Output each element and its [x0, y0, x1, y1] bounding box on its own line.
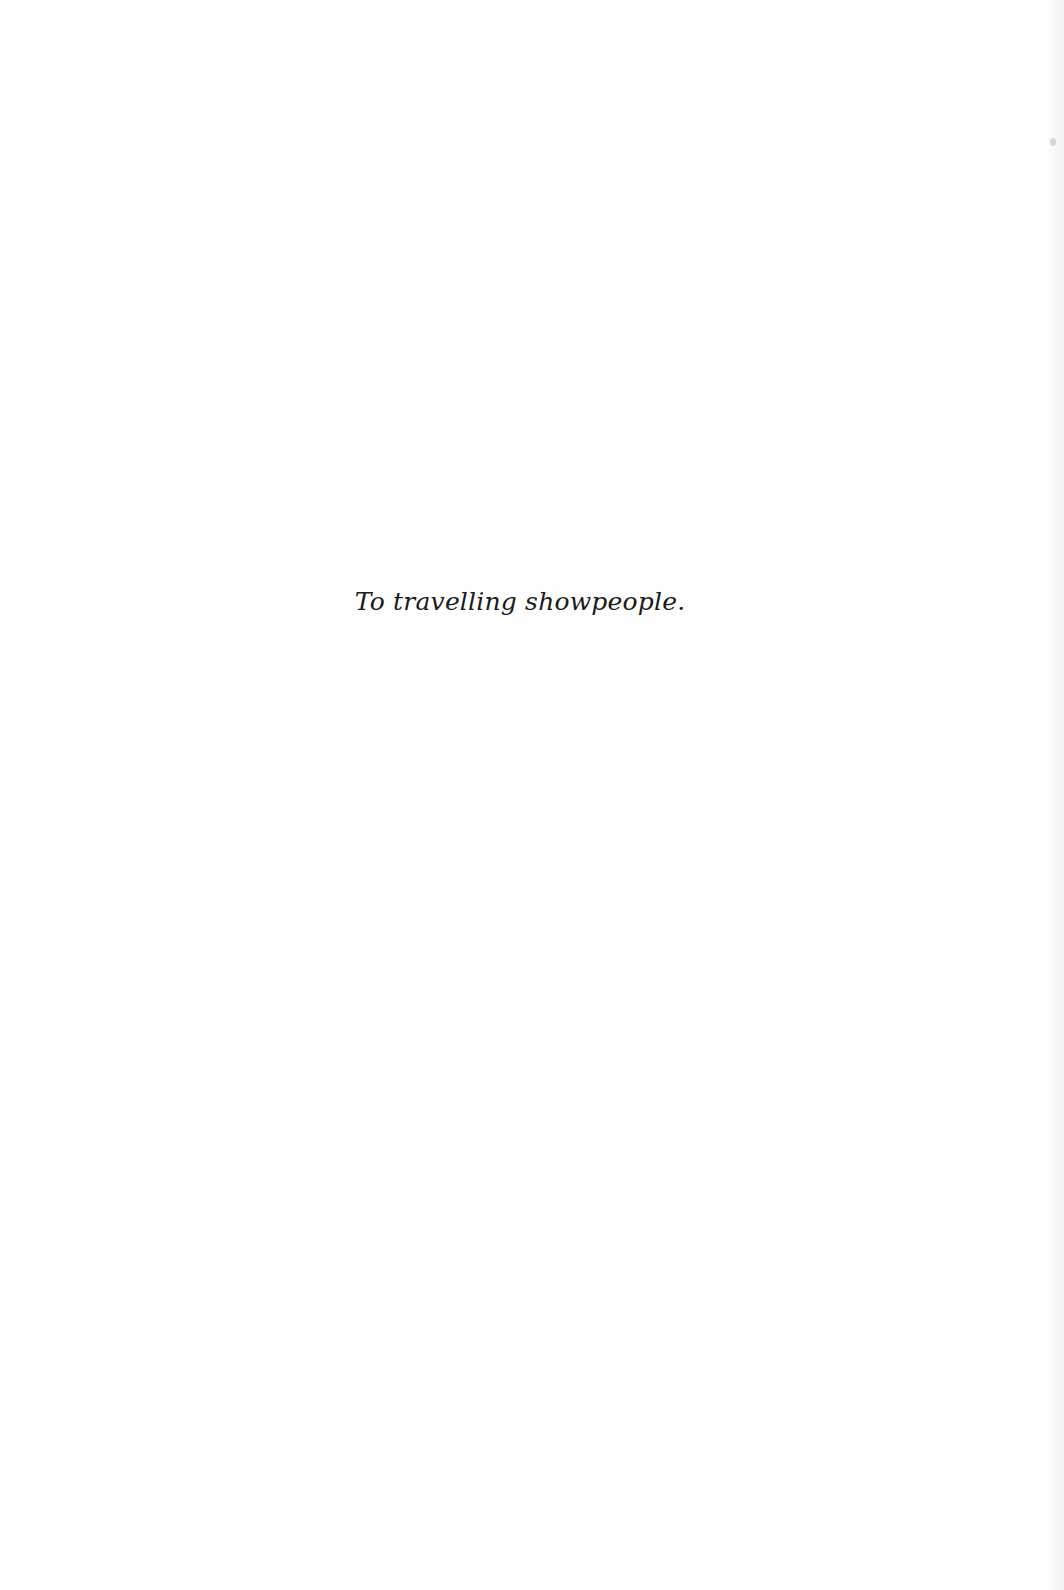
page-edge-shadow	[1046, 0, 1064, 1590]
book-page: To travelling showpeople.	[0, 0, 1064, 1590]
scan-artifact	[1050, 138, 1056, 146]
dedication-text: To travelling showpeople.	[0, 587, 1040, 616]
